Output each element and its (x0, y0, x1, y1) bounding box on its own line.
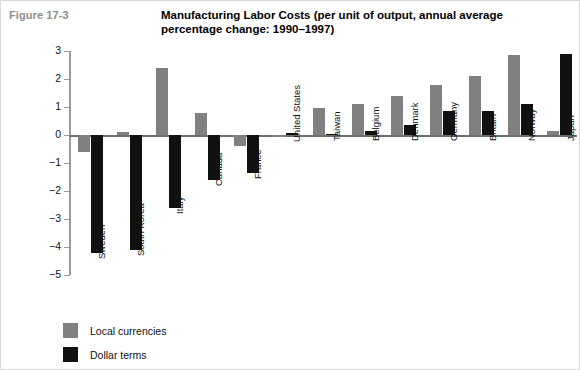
bar-local-currencies (195, 113, 207, 135)
y-axis-tick-label: 0 (39, 128, 61, 140)
figure-number-label: Figure 17-3 (9, 9, 69, 21)
bar-dollar-terms (521, 104, 533, 135)
bar-group (469, 51, 494, 275)
bar-group (313, 51, 338, 275)
bar-local-currencies (273, 135, 285, 137)
legend-item: Dollar terms (63, 347, 166, 362)
bar-local-currencies (156, 68, 168, 135)
bar-group (273, 51, 298, 275)
bar-local-currencies (78, 135, 90, 152)
y-axis-tick-label: −2 (39, 184, 61, 196)
bar-dollar-terms (326, 134, 338, 136)
figure-container: Figure 17-3 Manufacturing Labor Costs (p… (0, 0, 580, 370)
bar-group (195, 51, 220, 275)
bar-group (391, 51, 416, 275)
legend-swatch-dollar (63, 347, 78, 362)
plot-area: 3210−1−2−3−4−5 SwedenSouth KoreaItalyCan… (69, 51, 577, 291)
legend-label: Dollar terms (90, 349, 147, 361)
bar-dollar-terms (169, 135, 181, 208)
bar-dollar-terms (130, 135, 142, 250)
bar-dollar-terms (247, 135, 259, 173)
bar-local-currencies (430, 85, 442, 135)
legend-swatch-local (63, 323, 78, 338)
bar-group (430, 51, 455, 275)
bar-dollar-terms (286, 133, 298, 135)
bar-local-currencies (469, 76, 481, 135)
bar-dollar-terms (560, 54, 572, 135)
bar-group (508, 51, 533, 275)
y-axis-tick-label: 1 (39, 100, 61, 112)
bar-group (547, 51, 572, 275)
bar-series-container: SwedenSouth KoreaItalyCanadaFranceUnited… (69, 51, 577, 275)
bar-local-currencies (508, 55, 520, 135)
bar-group (234, 51, 259, 275)
legend-label: Local currencies (90, 325, 166, 337)
bar-dollar-terms (443, 111, 455, 135)
bar-group (156, 51, 181, 275)
y-axis-tick-label: −3 (39, 212, 61, 224)
bar-local-currencies (313, 108, 325, 135)
bar-local-currencies (391, 96, 403, 135)
y-axis-tick-label: −4 (39, 240, 61, 252)
bar-group (78, 51, 103, 275)
bar-group (352, 51, 377, 275)
bar-local-currencies (117, 132, 129, 135)
bar-group (117, 51, 142, 275)
bar-dollar-terms (365, 131, 377, 135)
chart-title: Manufacturing Labor Costs (per unit of o… (161, 8, 561, 36)
bar-dollar-terms (91, 135, 103, 253)
bar-dollar-terms (482, 111, 494, 135)
legend-item: Local currencies (63, 323, 166, 338)
y-axis-tick-label: 3 (39, 44, 61, 56)
bar-local-currencies (352, 104, 364, 135)
bar-dollar-terms (404, 125, 416, 135)
bar-local-currencies (547, 131, 559, 135)
y-axis-tick (64, 275, 70, 276)
y-axis-tick-label: −5 (39, 268, 61, 280)
bar-dollar-terms (208, 135, 220, 180)
bar-local-currencies (234, 135, 246, 146)
y-axis-tick-label: 2 (39, 72, 61, 84)
y-axis-tick-label: −1 (39, 156, 61, 168)
chart-legend: Local currenciesDollar terms (63, 323, 166, 370)
